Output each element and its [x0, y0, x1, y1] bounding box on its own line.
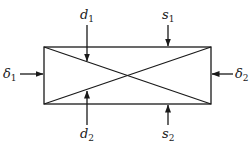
label-delta2: δ2: [235, 66, 249, 83]
label-s2: s2: [162, 126, 174, 143]
element-diagram: d1 s1 δ1 δ2 d2 s2: [0, 0, 252, 145]
label-delta1: δ1: [3, 66, 17, 83]
label-d1: d1: [80, 7, 94, 24]
label-d2: d2: [80, 126, 94, 143]
label-s1: s1: [162, 7, 174, 24]
